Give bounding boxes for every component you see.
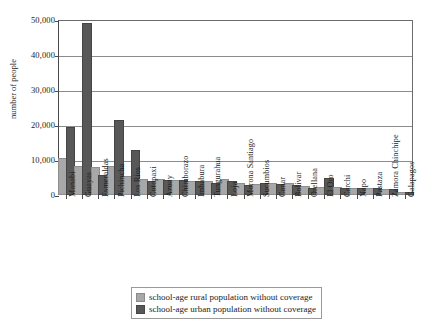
x-tick-label: El Oro [327,174,335,197]
x-tick-label: Chimborazo [182,156,190,197]
bar-series-container [58,20,413,195]
bar-group [74,20,90,195]
x-tick-label: Manabi [69,171,77,197]
y-tick-label: 50,000 [7,16,55,25]
x-tick-label: Sucumbios [263,160,271,197]
bar-group [284,20,300,195]
x-tick-label: Zamora Chinchipe [392,134,400,197]
y-tick-label: 0 [7,191,55,200]
chart-legend: school-age rural population without cove… [131,287,322,319]
x-tick-label: Napo [360,179,368,197]
x-tick-label: Pichincha [118,164,126,197]
bar-group [348,20,364,195]
legend-label-rural: school-age rural population without cove… [149,292,312,302]
legend-item-urban: school-age urban population without cove… [136,303,316,315]
x-tick-label: Cotopaxi [150,166,158,197]
y-tick-label: 40,000 [7,51,55,60]
x-tick-label: Canar [279,177,287,197]
x-axis-tick-labels: ManabiGuayasEsmeraldasPichinchaLos RiosC… [58,197,413,275]
y-axis-tick-labels: 010,00020,00030,00040,00050,000 [0,20,55,195]
bar-group [365,20,381,195]
x-tick-label: Los Rios [134,167,142,197]
x-tick-label: Esmeraldas [102,158,110,197]
x-tick-label: Guayas [85,172,93,197]
y-tick-label: 30,000 [7,86,55,95]
x-tick-label: Loja [231,182,239,197]
legend-swatch-urban-icon [136,305,145,314]
x-tick-label: Bolivar [295,172,303,197]
chart-figure: number of people 010,00020,00030,00040,0… [0,0,430,328]
x-tick-label: Pastaza [376,172,384,197]
x-tick-label: Orellana [311,168,319,197]
x-tick-label: Morona Santiago [247,139,255,197]
x-tick-label: Tungurahua [214,157,222,197]
bar-group [332,20,348,195]
x-tick-label: Galapagos [408,162,416,197]
x-tick-label: Azuay [166,175,174,197]
legend-item-rural: school-age rural population without cove… [136,291,316,303]
y-tick-label: 10,000 [7,156,55,165]
x-tick-label: Carchi [344,175,352,197]
y-tick-label: 20,000 [7,121,55,130]
x-tick-label: Imbabura [198,165,206,197]
bar-group [58,20,74,195]
legend-label-urban: school-age urban population without cove… [149,304,316,314]
legend-swatch-rural-icon [136,293,145,302]
